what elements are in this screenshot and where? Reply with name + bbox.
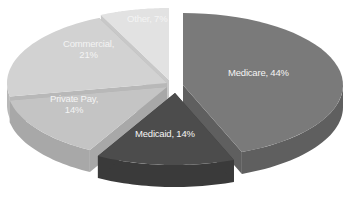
- label-commercial-line1: Commercial,: [63, 38, 114, 49]
- label-medicare: Medicare, 44%: [228, 67, 289, 78]
- label-medicare-text: Medicare, 44%: [228, 67, 289, 78]
- label-medicaid: Medicaid, 14%: [135, 128, 195, 139]
- label-other-text: Other, 7%: [127, 13, 167, 24]
- label-commercial: Commercial, 21%: [63, 38, 114, 60]
- label-private-pay-line2: 14%: [50, 104, 98, 115]
- label-other: Other, 7%: [127, 13, 167, 24]
- label-private-pay-line1: Private Pay,: [50, 93, 98, 104]
- label-commercial-line2: 21%: [63, 49, 114, 60]
- label-private-pay: Private Pay, 14%: [50, 93, 98, 115]
- label-medicaid-text: Medicaid, 14%: [135, 128, 195, 139]
